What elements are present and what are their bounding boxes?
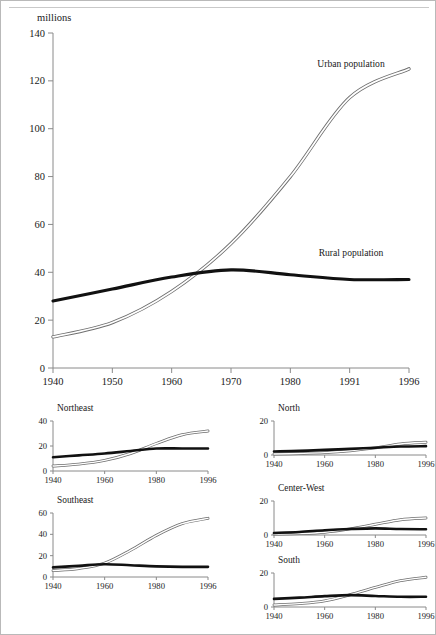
center-west-xtick-label: 1940 (265, 539, 282, 549)
main-ytick-label: 140 (29, 28, 45, 39)
main-xtick-label: 1960 (161, 376, 182, 387)
south-xtick-label: 1996 (417, 611, 435, 621)
center-west-panel-title: Center-West (278, 483, 325, 493)
southeast-ytick-label: 60 (38, 508, 47, 518)
center-west-chart-panel: 0201940196019801996Center-West (244, 479, 434, 557)
southeast-xtick-label: 1980 (148, 581, 165, 591)
south-urban-line-outline (274, 577, 426, 605)
northeast-xtick-label: 1960 (96, 475, 113, 485)
south-panel-title: South (278, 555, 300, 565)
northeast-xtick-label: 1996 (199, 475, 217, 485)
main-rural-line (53, 270, 409, 301)
center-west-xtick-label: 1980 (367, 539, 384, 549)
main-ytick-label: 20 (35, 315, 46, 326)
northeast-chart-panel: 020401940196019801996Northeast (23, 399, 218, 487)
main-xtick-label: 1996 (399, 376, 420, 387)
center-west-rural-line (274, 528, 426, 533)
main-ytick-label: 40 (35, 267, 46, 278)
main-ytick-label: 0 (40, 363, 45, 374)
main-xtick-label: 1940 (43, 376, 64, 387)
main-urban-line-outline (53, 69, 409, 337)
main-chart-svg: 0204060801001201401940195019601970198019… (1, 9, 436, 394)
northeast-panel-title: Northeast (57, 403, 94, 413)
south-rural-line (274, 595, 426, 599)
main-xtick-label: 1970 (221, 376, 242, 387)
north-chart-svg: 0201940196019801996North (244, 399, 434, 477)
main-series-annotation: Rural population (319, 247, 384, 258)
northeast-ytick-label: 20 (38, 441, 47, 451)
main-urban-line-fill (53, 69, 409, 337)
main-ytick-label: 120 (29, 75, 45, 86)
center-west-ytick-label: 20 (259, 496, 268, 506)
main-ytick-label: 60 (35, 219, 46, 230)
center-west-xtick-label: 1996 (417, 539, 435, 549)
southeast-xtick-label: 1960 (96, 581, 113, 591)
main-ytick-label: 80 (35, 171, 46, 182)
south-xtick-label: 1960 (316, 611, 333, 621)
southeast-ytick-label: 20 (38, 551, 47, 561)
center-west-chart-svg: 0201940196019801996Center-West (244, 479, 434, 557)
north-xtick-label: 1940 (265, 459, 282, 469)
north-panel-title: North (278, 403, 300, 413)
northeast-xtick-label: 1940 (44, 475, 61, 485)
south-xtick-label: 1980 (367, 611, 384, 621)
north-xtick-label: 1996 (417, 459, 435, 469)
southeast-urban-line-outline (53, 518, 208, 570)
main-y-axis-title: millions (37, 12, 71, 23)
north-xtick-label: 1980 (367, 459, 384, 469)
main-xtick-label: 1950 (102, 376, 123, 387)
north-xtick-label: 1960 (316, 459, 333, 469)
north-chart-panel: 0201940196019801996North (244, 399, 434, 477)
north-ytick-label: 20 (259, 416, 268, 426)
south-chart-svg: 0201940196019801996South (244, 551, 434, 629)
southeast-panel-title: Southeast (57, 495, 94, 505)
southeast-xtick-label: 1996 (199, 581, 217, 591)
south-chart-panel: 0201940196019801996South (244, 551, 434, 629)
main-xtick-label: 1980 (280, 376, 301, 387)
top-divider (9, 7, 429, 8)
southeast-rural-line (53, 564, 208, 567)
southeast-urban-line-fill (53, 518, 208, 570)
center-west-xtick-label: 1960 (316, 539, 333, 549)
chart-figure: 0204060801001201401940195019601970198019… (0, 0, 436, 635)
southeast-chart-panel: 02040601940196019801996Southeast (23, 491, 218, 595)
main-ytick-label: 100 (29, 123, 45, 134)
main-series-annotation: Urban population (317, 58, 385, 69)
main-xtick-label: 1991 (339, 376, 360, 387)
southeast-ytick-label: 40 (38, 529, 47, 539)
south-xtick-label: 1940 (265, 611, 282, 621)
south-ytick-label: 20 (259, 568, 268, 578)
main-chart-panel: 0204060801001201401940195019601970198019… (1, 9, 436, 394)
northeast-ytick-label: 40 (38, 416, 47, 426)
southeast-chart-svg: 02040601940196019801996Southeast (23, 491, 218, 595)
northeast-xtick-label: 1980 (148, 475, 165, 485)
southeast-xtick-label: 1940 (44, 581, 61, 591)
northeast-chart-svg: 020401940196019801996Northeast (23, 399, 218, 487)
